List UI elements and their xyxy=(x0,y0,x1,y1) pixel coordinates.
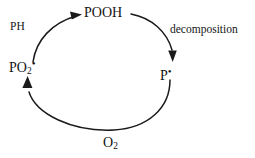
arrow-pooh-to-p-head xyxy=(168,50,177,62)
arrow-pooh-to-p-path xyxy=(131,14,172,50)
species-label-p-radical: P• xyxy=(160,66,172,83)
ph-text: PH xyxy=(10,20,25,32)
po2-base-text: PO xyxy=(9,60,27,75)
species-label-po2-radical: PO2• xyxy=(9,58,36,76)
species-label-pooh: POOH xyxy=(84,6,122,20)
pooh-text: POOH xyxy=(84,5,122,20)
arrow-p-to-po2-path xyxy=(29,80,170,130)
decomposition-text: decomposition xyxy=(170,23,238,35)
arrow-po2-to-pooh-head xyxy=(70,11,82,19)
p-base-text: P xyxy=(160,68,168,83)
annotation-decomposition: decomposition xyxy=(170,24,238,36)
species-label-o2: O2 xyxy=(103,136,118,152)
arrow-po2-to-pooh-path xyxy=(33,16,76,62)
reaction-cycle-diagram: POOH PH decomposition PO2• P• O2 xyxy=(0,0,255,158)
o2-subscript-text: 2 xyxy=(113,141,118,151)
p-radical-dot-icon: • xyxy=(168,65,172,77)
annotation-ph: PH xyxy=(10,21,25,33)
o2-base-text: O xyxy=(103,135,113,150)
arrow-p-to-po2-head xyxy=(22,76,32,88)
po2-radical-dot-icon: • xyxy=(32,57,36,69)
